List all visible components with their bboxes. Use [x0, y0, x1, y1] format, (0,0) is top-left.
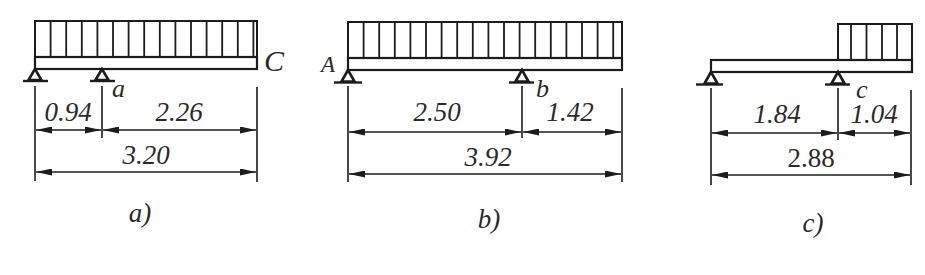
beam-diagrams-figure: C a 0.94 2.26 3.20 a) A b [0, 0, 925, 275]
dimension-right-span: 2.26 [155, 97, 203, 127]
panel-caption-b: b) [478, 204, 501, 234]
panel-caption-c: c) [803, 208, 824, 238]
panel-b: A b 2.50 1.42 3.92 b) [319, 22, 622, 234]
dimension-total: 3.92 [463, 142, 511, 172]
dimension-left-span: 1.84 [753, 99, 800, 129]
point-label-a-upper: A [319, 52, 336, 77]
dimension-left-span: 0.94 [44, 97, 91, 127]
dimension-total: 2.88 [787, 143, 834, 173]
support-label-a: a [112, 74, 125, 103]
panel-c: c 1.84 1.04 2.88 c) [696, 24, 912, 238]
beam-c [711, 60, 912, 72]
pin-support-icon [825, 72, 850, 85]
distributed-load-b [348, 22, 622, 58]
panel-caption-a: a) [129, 198, 152, 228]
pin-support-icon [334, 70, 362, 83]
point-label-c: C [264, 44, 285, 77]
distributed-load-c [838, 24, 912, 60]
pin-support-icon [696, 72, 723, 85]
dimension-right-span: 1.42 [546, 97, 593, 127]
pin-support-icon [509, 70, 534, 83]
distributed-load-a [35, 21, 257, 57]
dimension-total: 3.20 [121, 140, 170, 170]
beam-b [348, 58, 622, 70]
panel-a: C a 0.94 2.26 3.20 a) [23, 21, 285, 228]
beam-a [35, 57, 257, 69]
dimension-right-span: 1.04 [850, 99, 897, 129]
dimension-left-span: 2.50 [413, 97, 461, 127]
pin-support-icon [23, 69, 48, 81]
